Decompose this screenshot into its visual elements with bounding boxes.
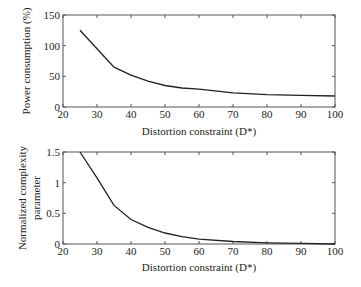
x-tick-label: 60 [194,108,206,120]
bottom-x-axis-label: Distortion constraint (D*) [142,261,257,274]
x-tick-label: 70 [228,108,240,120]
bottom-ticks [63,152,335,244]
x-tick-label: 50 [160,245,172,257]
x-tick-label: 20 [58,245,70,257]
power-consumption-line [80,30,335,96]
top-x-tick-labels: 2030405060708090100 [58,108,344,120]
y-tick-label: 100 [44,40,61,52]
x-tick-label: 80 [262,108,274,120]
top-chart: 050100150 2030405060708090100 Distortion… [20,7,344,138]
x-tick-label: 40 [126,245,138,257]
bottom-chart: 00.511.5 2030405060708090100 Distortion … [16,145,344,274]
x-tick-label: 100 [327,245,344,257]
x-tick-label: 90 [296,245,308,257]
x-tick-label: 30 [92,245,104,257]
y-tick-label: 0.5 [46,207,60,219]
y-tick-label: 50 [49,70,61,82]
bottom-y-axis-label-line2: parameter [30,176,42,220]
top-ticks [63,15,335,107]
y-tick-label: 150 [44,9,61,21]
x-tick-label: 80 [262,245,274,257]
bottom-plot-frame [63,152,335,244]
top-plot-frame [63,15,335,107]
x-tick-label: 70 [228,245,240,257]
bottom-x-tick-labels: 2030405060708090100 [58,245,344,257]
y-tick-label: 1 [55,177,61,189]
complexity-parameter-line [80,152,335,244]
y-tick-label: 1.5 [46,146,60,158]
top-y-axis-label: Power consumption (%) [20,7,33,114]
x-tick-label: 30 [92,108,104,120]
top-y-tick-labels: 050100150 [44,9,61,113]
x-tick-label: 100 [327,108,344,120]
figure: 050100150 2030405060708090100 Distortion… [0,0,361,287]
top-x-axis-label: Distortion constraint (D*) [142,125,257,138]
x-tick-label: 60 [194,245,206,257]
x-tick-label: 50 [160,108,172,120]
x-tick-label: 90 [296,108,308,120]
bottom-y-axis-label-line1: Normalized complexity [16,145,28,250]
x-tick-label: 20 [58,108,70,120]
x-tick-label: 40 [126,108,138,120]
bottom-y-tick-labels: 00.511.5 [46,146,60,250]
